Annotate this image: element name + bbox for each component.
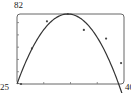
data-point (20, 83, 22, 85)
data-point (105, 37, 107, 39)
data-point (46, 20, 48, 22)
data-point (120, 62, 122, 64)
data-point (83, 29, 85, 31)
axis-ticks (17, 23, 97, 84)
plot-area (0, 0, 131, 93)
data-points (20, 13, 122, 85)
data-point (67, 13, 69, 15)
fit-curve (17, 14, 124, 93)
plot-frame (17, 14, 124, 84)
data-point (31, 47, 33, 49)
